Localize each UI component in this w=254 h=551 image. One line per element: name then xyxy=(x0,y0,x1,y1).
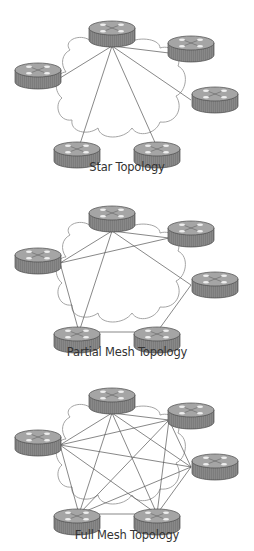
cloud-shape xyxy=(56,218,185,322)
link-top-right-left xyxy=(60,420,169,445)
full-mesh-topology-label: Full Mesh Topology xyxy=(0,528,254,542)
router-icon-left xyxy=(15,430,61,456)
star-topology-diagram xyxy=(15,21,238,168)
cropped-caption-text xyxy=(0,0,254,2)
link-bottom-right-right xyxy=(157,285,191,332)
router-icon-right xyxy=(192,272,238,298)
cloud-shape xyxy=(56,33,185,137)
partial-topology-diagram xyxy=(15,206,238,353)
link-top-right-bottom-left xyxy=(79,420,169,514)
router-icon-right xyxy=(192,87,238,113)
link-top-bottom-left xyxy=(79,46,112,147)
router-icon-top-right xyxy=(168,36,214,62)
star-topology-label: Star Topology xyxy=(0,160,254,174)
router-icon-top-right xyxy=(168,403,214,429)
link-right-left xyxy=(60,445,191,467)
router-icon-top xyxy=(89,388,135,414)
link-top-bottom-left xyxy=(79,413,112,514)
network-topology-figure xyxy=(0,0,254,551)
router-icon-left xyxy=(15,248,61,274)
router-icon-top xyxy=(89,206,135,232)
full-topology-diagram xyxy=(15,388,238,535)
router-icon-top-right xyxy=(168,221,214,247)
link-left-top-right xyxy=(60,238,169,263)
link-top-bottom-left xyxy=(79,231,112,332)
router-icon-top xyxy=(89,21,135,47)
link-left-bottom-left xyxy=(60,263,79,332)
link-bottom-left-left xyxy=(60,445,79,514)
router-icon-right xyxy=(192,454,238,480)
partial-mesh-topology-label: Partial Mesh Topology xyxy=(0,345,254,359)
router-icon-left xyxy=(15,63,61,89)
